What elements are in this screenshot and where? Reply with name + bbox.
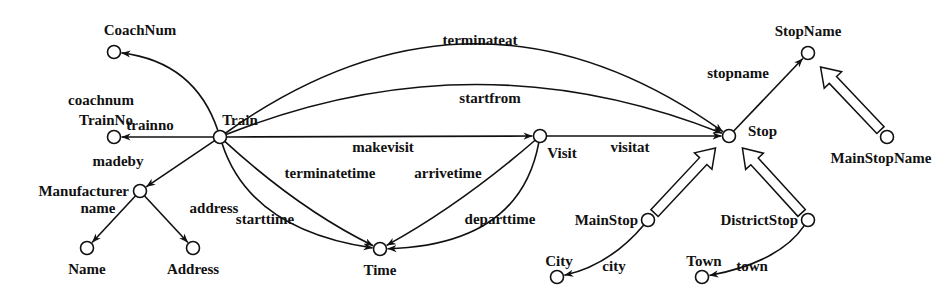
node-train [214,131,227,144]
edge-label-address: address [190,200,239,216]
edge-label-departtime: departtime [465,211,536,227]
edge-label-arrivetime: arrivetime [414,165,482,181]
edge-label-terminatetime: terminatetime [285,165,376,181]
isa-arrow-mainstopname-to-stopname [821,67,885,134]
edge-address [144,196,187,243]
node-stopname [802,47,815,60]
isa-arrow-districtstop-to-stop [742,148,805,216]
edge-label-madeby: madeby [93,153,144,169]
node-city [551,271,564,284]
edge-makevisit [226,136,532,137]
node-label-visit: Visit [547,145,576,161]
node-town [696,271,709,284]
edge-label-makevisit: makevisit [352,139,414,155]
edge-label-city: city [602,258,626,274]
edge-label-trainno: trainno [126,117,174,133]
edge-label-stopname: stopname [707,65,769,81]
node-label-name: Name [68,261,106,277]
edge-label-name: name [81,200,116,216]
node-label-train: Train [222,112,258,128]
edge-departtime [387,142,538,248]
node-label-stopname: StopName [775,23,842,39]
isa-arrow-mainstop-to-stop [651,148,716,217]
edge-madeby [146,141,214,187]
edge-label-coachnum: coachnum [68,92,134,108]
node-mainstopname [881,131,894,144]
edge-terminateat [225,44,723,134]
node-label-city: City [545,253,573,269]
node-label-address: Address [167,261,219,277]
node-trainno [108,131,121,144]
node-label-mainstop: MainStop [575,212,638,228]
node-label-trainno: TrainNo [79,112,133,128]
edge-label-starttime: starttime [236,211,295,227]
edge-label-startfrom: startfrom [459,90,521,106]
node-districtstop [802,214,815,227]
schema-diagram: coachnumtrainnomadebynameaddressterminat… [0,0,948,302]
node-label-stop: Stop [748,123,777,139]
node-name [81,242,94,255]
node-label-districtstop: DistrictStop [721,212,799,228]
node-address [187,242,200,255]
node-stop [723,130,736,143]
edge-arrivetime [387,140,536,245]
node-label-town: Town [686,253,722,269]
node-mainstop [642,214,655,227]
node-manufacturer [134,185,147,198]
edge-label-visitat: visitat [610,139,649,155]
node-label-mainstopname: MainStopName [831,150,932,166]
node-label-time: Time [363,262,396,278]
edge-terminatetime [225,141,373,245]
node-visit [534,130,547,143]
node-time [374,243,387,256]
node-label-coachnum: CoachNum [104,22,177,38]
node-coachnum [108,46,121,59]
node-label-manufacturer: Manufacturer [38,183,129,199]
edge-label-town: town [736,258,768,274]
edge-label-terminateat: terminateat [443,32,518,48]
